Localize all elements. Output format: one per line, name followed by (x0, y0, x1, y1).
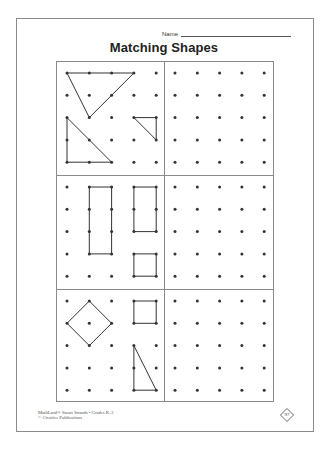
grid-dot (240, 72, 243, 75)
grid-dot (218, 116, 221, 119)
grid-dot (155, 72, 158, 75)
panel-row3-right[interactable] (165, 290, 273, 402)
grid-dot (196, 322, 199, 325)
grid-dot (218, 366, 221, 369)
grid-dot (196, 389, 199, 392)
grid-dot (174, 72, 177, 75)
grid-dot (174, 300, 177, 303)
grid-dot (263, 252, 266, 255)
grid-dot (196, 186, 199, 189)
grid-dot (132, 208, 135, 211)
grid-dot (263, 161, 266, 164)
grid-dot (174, 116, 177, 119)
grid-dot (110, 366, 113, 369)
grid-dot (88, 94, 91, 97)
page-title: Matching Shapes (0, 40, 328, 55)
grid-dot (88, 366, 91, 369)
grid-dot (218, 208, 221, 211)
name-blank-line[interactable] (181, 30, 291, 37)
grid-dot (110, 208, 113, 211)
grid-dot (196, 94, 199, 97)
grid-dot (88, 208, 91, 211)
small-square-shape (134, 254, 156, 276)
grid-dot (132, 300, 135, 303)
grid-dot (240, 138, 243, 141)
grid-dot (196, 72, 199, 75)
grid-dot (66, 94, 69, 97)
footer-credits: MathLand® Smart Strands • Grades K–2 © C… (38, 410, 114, 421)
grid-dot (263, 72, 266, 75)
panel-row3-left (57, 290, 164, 402)
grid-dot (218, 344, 221, 347)
grid-dot (66, 322, 69, 325)
grid-dot (66, 186, 69, 189)
grid-dot (218, 138, 221, 141)
footer-copyright: © Creative Publications (38, 415, 114, 420)
grid-dot (66, 252, 69, 255)
grid-dot (218, 230, 221, 233)
grid-dot (66, 72, 69, 75)
grid-dot (218, 252, 221, 255)
grid-dot (66, 230, 69, 233)
grid-dot (174, 275, 177, 278)
grid-dot (174, 344, 177, 347)
grid-dot (155, 94, 158, 97)
grid-dot (132, 138, 135, 141)
grid-dot (240, 252, 243, 255)
panel-row2-right[interactable] (165, 176, 273, 289)
grid-dot (174, 138, 177, 141)
grid-dot (155, 252, 158, 255)
grid-dot (174, 94, 177, 97)
grid-dot (196, 138, 199, 141)
grid-dot (88, 300, 91, 303)
grid-dot (88, 138, 91, 141)
grid-dot (240, 94, 243, 97)
grid-dot (66, 138, 69, 141)
grid-dot (155, 161, 158, 164)
grid-dot (263, 94, 266, 97)
grid-dot (110, 94, 113, 97)
grid-dot (132, 94, 135, 97)
grid-dot (132, 389, 135, 392)
grid-dot (155, 344, 158, 347)
grid-dot (174, 161, 177, 164)
grid-dot (155, 322, 158, 325)
grid-dot (155, 389, 158, 392)
grid-dot (263, 300, 266, 303)
grid-dot (263, 186, 266, 189)
grid-dot (155, 186, 158, 189)
grid-dot (196, 275, 199, 278)
grid-dot (263, 116, 266, 119)
grid-dot (263, 344, 266, 347)
grid-dot (218, 72, 221, 75)
grid-dot (132, 186, 135, 189)
grid-dot (218, 322, 221, 325)
grid-dot (155, 116, 158, 119)
grid-dot (66, 300, 69, 303)
grid-dot (263, 208, 266, 211)
grid-dot (110, 275, 113, 278)
grid-dot (196, 366, 199, 369)
grid-dot (66, 275, 69, 278)
grid-dot (110, 230, 113, 233)
panel-row1-left (57, 62, 164, 175)
grid-dot (88, 389, 91, 392)
grid-dot (240, 300, 243, 303)
grid-dot (174, 186, 177, 189)
grid-dot (240, 366, 243, 369)
grid-dot (240, 344, 243, 347)
grid-dot (110, 138, 113, 141)
grid-dot (240, 116, 243, 119)
grid-dot (155, 366, 158, 369)
grid-dot (66, 208, 69, 211)
grid-dot (240, 322, 243, 325)
short-rectangle-shape (134, 187, 156, 232)
grid-dot (110, 322, 113, 325)
tall-rectangle-shape (89, 187, 111, 254)
grid-dot (155, 138, 158, 141)
grid-dot (240, 208, 243, 211)
grid-dot (174, 230, 177, 233)
panel-row1-right[interactable] (165, 62, 273, 175)
grid-dot (240, 186, 243, 189)
grid-dot (88, 186, 91, 189)
